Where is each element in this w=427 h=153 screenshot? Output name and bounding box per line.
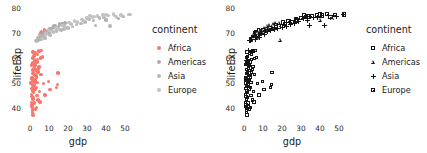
data-point <box>32 101 36 105</box>
data-point <box>295 18 299 22</box>
data-point <box>37 49 41 53</box>
data-point <box>39 38 43 42</box>
legend-item-americas[interactable]: Americas <box>366 55 426 69</box>
data-point <box>322 23 327 28</box>
data-point <box>289 20 293 24</box>
data-point <box>271 27 275 31</box>
x-tick-label: 0 <box>242 124 247 133</box>
data-point <box>302 13 306 17</box>
legend-label: Asia <box>382 71 399 81</box>
data-point <box>31 68 35 72</box>
data-point <box>246 71 249 74</box>
data-point <box>44 32 48 36</box>
data-point <box>318 12 322 16</box>
data-point <box>35 94 39 98</box>
data-point <box>245 68 248 71</box>
data-point <box>255 56 258 59</box>
legend-key-plus-icon <box>366 69 380 83</box>
data-point <box>247 80 250 83</box>
x-tick-label: 30 <box>296 124 305 133</box>
legend-item-americas[interactable]: Americas <box>152 55 212 69</box>
y-tick-label: 40 <box>218 104 235 113</box>
data-point <box>115 15 119 19</box>
legend-label: Europe <box>382 85 411 95</box>
legend-key-circle-icon <box>152 41 166 55</box>
data-point <box>307 23 312 28</box>
data-point <box>333 13 337 17</box>
legend-key-open-triangle-icon <box>366 55 380 69</box>
data-point <box>244 58 249 63</box>
data-point <box>246 48 251 53</box>
data-point <box>269 86 272 89</box>
data-point <box>245 113 248 116</box>
legend-title: continent <box>152 24 212 35</box>
data-point <box>56 71 60 75</box>
y-tick-label: 70 <box>218 29 235 38</box>
legend-item-europe[interactable]: Europe <box>366 83 426 97</box>
data-point <box>252 90 255 93</box>
data-point <box>37 67 41 71</box>
x-tick-label: 50 <box>120 124 129 133</box>
data-point <box>256 82 259 85</box>
x-tick-label: 40 <box>315 124 324 133</box>
plot-area-left[interactable] <box>26 8 146 120</box>
data-point <box>39 73 43 77</box>
legend-label: Africa <box>382 43 405 53</box>
data-point <box>342 12 346 16</box>
data-point <box>92 19 96 23</box>
legend-key-circle-icon <box>152 69 166 83</box>
data-point <box>251 49 254 52</box>
data-point <box>264 29 268 33</box>
data-point <box>34 107 38 111</box>
data-point <box>306 14 310 18</box>
legend-item-africa[interactable]: Africa <box>152 41 212 55</box>
x-tick-label: 50 <box>334 124 343 133</box>
data-point <box>248 107 251 110</box>
legend-key-circle-icon <box>152 83 166 97</box>
figure-canvas: 80 70 60 50 40 0 10 20 30 40 50 gdp life… <box>0 0 427 153</box>
data-point <box>69 22 73 26</box>
data-point <box>76 20 80 24</box>
data-point <box>257 93 260 96</box>
data-point <box>42 82 46 86</box>
legend-label: Americas <box>168 57 206 67</box>
legend-key-circle-icon <box>152 55 166 69</box>
legend-item-europe[interactable]: Europe <box>152 83 212 97</box>
panel-shape-encoded: 80 70 60 50 40 0 10 20 30 40 50 gdp life… <box>214 0 427 153</box>
data-point <box>245 84 248 87</box>
legend-item-asia[interactable]: Asia <box>152 69 212 83</box>
x-tick-label: 40 <box>101 124 110 133</box>
data-point <box>31 50 35 54</box>
data-point <box>253 73 256 76</box>
data-point <box>244 63 247 66</box>
x-tick-label: 10 <box>44 124 53 133</box>
data-point <box>253 37 258 42</box>
y-tick-label: 80 <box>4 4 21 13</box>
data-point <box>30 95 34 99</box>
data-point <box>128 13 132 17</box>
data-point <box>258 32 262 36</box>
plot-area-right[interactable] <box>240 8 360 120</box>
data-point <box>43 93 47 97</box>
data-point <box>63 25 67 29</box>
data-point <box>251 68 254 71</box>
data-point <box>250 58 253 61</box>
data-point <box>33 80 37 84</box>
legend-item-asia[interactable]: Asia <box>366 69 426 83</box>
legend-item-africa[interactable]: Africa <box>366 41 426 55</box>
data-point <box>79 22 83 26</box>
data-point <box>108 24 112 28</box>
data-point <box>248 38 253 43</box>
data-point <box>47 80 51 84</box>
data-point <box>55 86 59 90</box>
panel-color-encoded: 80 70 60 50 40 0 10 20 30 40 50 gdp life… <box>0 0 213 153</box>
legend-key-open-square-icon <box>366 41 380 55</box>
legend-label: Africa <box>168 43 191 53</box>
data-point <box>41 55 45 59</box>
data-point <box>248 74 251 77</box>
legend-label: Asia <box>168 71 185 81</box>
y-axis-title: lifeExp <box>12 48 23 80</box>
data-point <box>94 24 98 28</box>
data-point <box>278 38 282 42</box>
data-point <box>261 80 264 83</box>
